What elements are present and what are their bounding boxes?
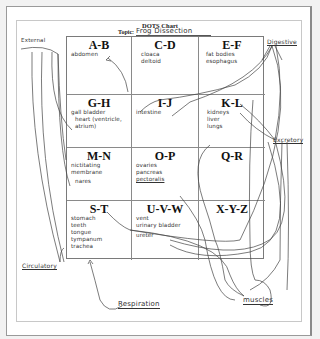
cell-c-d: C-D cloaca deltoid (132, 37, 199, 95)
cell-o-p: O-P ovaries pancreas pectoralis (132, 148, 199, 201)
cell-a-b: A-B abdomen (67, 37, 132, 95)
cell-letters: I-J (132, 97, 198, 109)
topic-label: Topic: (118, 29, 134, 35)
cell-entry: abdomen (67, 51, 131, 58)
cell-entry: lungs (199, 123, 265, 130)
cell-entry: tongue (67, 229, 131, 236)
cell-letters: A-B (67, 39, 131, 51)
cell-letters: Q-R (199, 150, 265, 162)
cell-entry: ovaries (132, 162, 198, 169)
cell-entry: fat bodies (199, 51, 265, 58)
cell-letters: O-P (132, 150, 198, 162)
cell-entry: pectoralis (132, 176, 198, 183)
cell-entry: intestine (132, 109, 198, 116)
cell-entry: kidneys (199, 109, 265, 116)
cell-m-n: M-N nictitating membrane nares (67, 148, 132, 201)
cell-entry: stomach (67, 215, 131, 222)
cell-entry: urinary bladder (132, 222, 198, 229)
cell-entry: trachea (67, 243, 131, 250)
cell-entry: tympanum (67, 236, 131, 243)
cell-g-h: G-H gall bladder heart (ventricle, atriu… (67, 95, 132, 148)
cell-entry: vent (132, 215, 198, 222)
cell-u-v-w: U-V-W vent urinary bladder ureter (132, 201, 199, 260)
annotation-respiration: Respiration (118, 300, 160, 309)
cell-entry: deltoid (132, 58, 198, 65)
cell-letters: U-V-W (132, 203, 198, 215)
cell-letters: M-N (67, 150, 131, 162)
topic-value: Frog Dissection (136, 27, 211, 36)
cell-entry: nares (67, 178, 131, 185)
annotation-external: External (21, 37, 45, 43)
cell-q-r: Q-R (199, 148, 265, 201)
cell-entry: gall bladder (67, 109, 131, 116)
cell-entry: teeth (67, 222, 131, 229)
cell-entry: heart (ventricle, atrium) (67, 116, 131, 130)
cell-k-l: K-L kidneys liver lungs (199, 95, 265, 148)
annotation-muscles: muscles (243, 296, 273, 305)
cell-letters: C-D (132, 39, 198, 51)
dots-grid: A-B abdomen C-D cloaca deltoid E-F fat b… (66, 36, 264, 259)
annotation-excretory: Excretory (273, 136, 303, 144)
cell-entry: liver (199, 116, 265, 123)
cell-letters: S-T (67, 203, 131, 215)
cell-entry: esophagus (199, 58, 265, 65)
cell-letters: E-F (199, 39, 265, 51)
cell-s-t: S-T stomach teeth tongue tympanum trache… (67, 201, 132, 260)
cell-entry: nictitating membrane (67, 162, 131, 176)
cell-entry: cloaca (132, 51, 198, 58)
cell-entry: pancreas (132, 169, 198, 176)
cell-entry: ureter (132, 232, 198, 239)
cell-letters: X-Y-Z (199, 203, 265, 215)
cell-x-y-z: X-Y-Z (199, 201, 265, 260)
cell-letters: G-H (67, 97, 131, 109)
cell-i-j: I-J intestine (132, 95, 199, 148)
cell-letters: K-L (199, 97, 265, 109)
annotation-digestive: Digestive (267, 38, 297, 46)
cell-e-f: E-F fat bodies esophagus (199, 37, 265, 95)
annotation-circulatory: Circulatory (22, 262, 57, 270)
